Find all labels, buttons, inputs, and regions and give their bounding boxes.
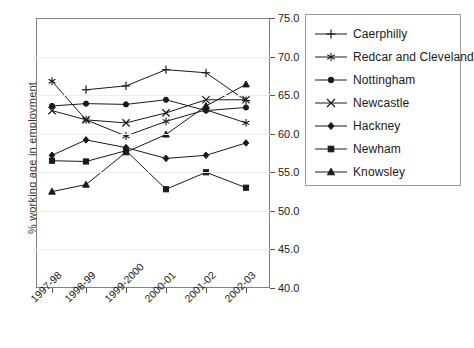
y-axis-tick [270,57,275,58]
y-axis-label: 70.0 [278,51,299,63]
legend-marker-square-icon [314,142,348,156]
legend-marker-x-icon [314,96,348,110]
y-axis-label: 65.0 [278,89,299,101]
legend-item-knowsley[interactable]: Knowsley [306,160,460,183]
gridline [36,172,270,173]
y-axis-label: 60.0 [278,128,299,140]
legend-marker-triangle-icon [314,165,348,179]
series-newham [49,148,248,192]
legend-marker-asterisk-icon [314,50,348,64]
gridline [36,134,270,135]
legend-item-nottingham[interactable]: Nottingham [306,68,460,91]
gridline [36,249,270,250]
y-axis-tick [270,134,275,135]
legend-item-redcar-and-cleveland[interactable]: Redcar and Cleveland [306,45,460,68]
y-axis-tick [270,18,275,19]
gridline [36,57,270,58]
legend-label: Hackney [353,119,400,133]
y-axis-label: 40.0 [278,282,299,294]
legend-label: Newcastle [353,96,409,110]
y-axis-label: 50.0 [278,205,299,217]
legend-item-hackney[interactable]: Hackney [306,114,460,137]
legend-marker-plus-icon [314,27,348,41]
plot-canvas [37,19,269,287]
legend-label: Newham [353,142,401,156]
gridline [36,211,270,212]
y-axis-tick [270,249,275,250]
legend-item-newcastle[interactable]: Newcastle [306,91,460,114]
y-axis-tick [270,288,275,289]
y-axis-tick [270,95,275,96]
gridline [36,95,270,96]
legend-marker-diamond-icon [314,119,348,133]
series-svg [37,19,269,287]
legend-items: CaerphillyRedcar and ClevelandNottingham… [306,22,460,183]
series-redcar-and-cleveland [49,77,250,140]
y-axis-label: 45.0 [278,243,299,255]
legend-item-caerphilly[interactable]: Caerphilly [306,22,460,45]
legend: CaerphillyRedcar and ClevelandNottingham… [305,14,461,186]
plot-area [36,18,270,288]
y-axis-tick [270,211,275,212]
legend-label: Caerphilly [353,27,407,41]
y-axis-label: 75.0 [278,12,299,24]
legend-label: Redcar and Cleveland [353,50,474,64]
legend-marker-circle-icon [314,73,348,87]
legend-item-newham[interactable]: Newham [306,137,460,160]
legend-label: Nottingham [353,73,415,87]
y-axis-tick [270,172,275,173]
y-axis-label: 55.0 [278,166,299,178]
legend-label: Knowsley [353,165,405,179]
series-hackney [49,137,249,162]
